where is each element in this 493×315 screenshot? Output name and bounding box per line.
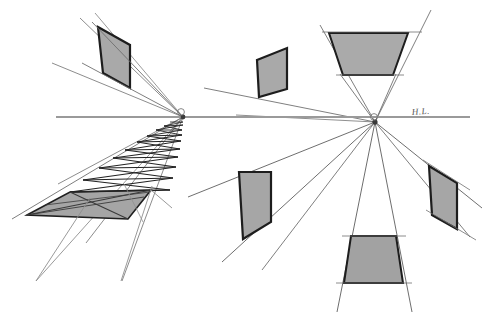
plane-mid-upper bbox=[257, 48, 287, 97]
grid-diagonal-12 bbox=[113, 158, 176, 167]
ray-left-vp-1 bbox=[80, 18, 183, 117]
ray-right-vp-3 bbox=[340, 74, 375, 122]
ray-right-vp-4 bbox=[375, 74, 396, 122]
trapezoid-upper-right bbox=[329, 33, 408, 75]
rays-from-left-vp bbox=[12, 13, 183, 281]
ray-right-vp-13 bbox=[236, 115, 375, 122]
plane-right-low bbox=[429, 166, 457, 229]
plane-upper-left-bottom-guide bbox=[82, 63, 183, 117]
ray-left-vp-5 bbox=[58, 117, 183, 184]
perspective-canvas: H.L. bbox=[0, 0, 493, 315]
rays-from-right-vp bbox=[188, 10, 482, 312]
plane-upper-left bbox=[98, 27, 130, 88]
perspective-drawing: H.L. bbox=[0, 0, 493, 315]
plane-mid-low bbox=[239, 172, 271, 239]
horizon-line-label: H.L. bbox=[410, 106, 430, 117]
trapezoid-lower-right bbox=[344, 236, 403, 283]
ray-right-vp-5 bbox=[188, 122, 375, 197]
floor-extension-3 bbox=[151, 190, 172, 208]
